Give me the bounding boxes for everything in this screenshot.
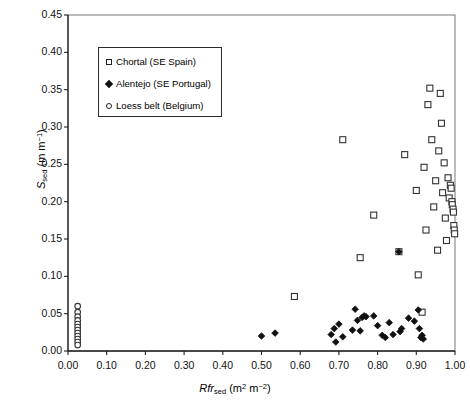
y-tick-label: 0.40: [22, 45, 62, 57]
data-point: [336, 321, 343, 328]
scatter-plot-figure: Ssed (m m−1) Rfrsed (m2 m−2) Chortal (SE…: [0, 0, 470, 405]
legend-item-chortal: Chortal (SE Spain): [106, 56, 196, 67]
data-point: [431, 204, 437, 210]
series-open-circle: [75, 303, 81, 347]
y-tick-label: 0.15: [22, 232, 62, 244]
data-point: [441, 160, 447, 166]
open-circle-icon: [106, 103, 112, 109]
legend-label: Loess belt (Belgium): [116, 100, 203, 111]
data-point: [421, 164, 427, 170]
x-tick-label: 0.10: [87, 359, 127, 371]
data-point: [435, 247, 441, 253]
data-point: [445, 175, 451, 181]
data-point: [440, 190, 446, 196]
data-point: [357, 328, 364, 335]
data-point: [448, 185, 454, 191]
x-tick-label: 0.60: [280, 359, 320, 371]
series-filled-diamond: [258, 248, 426, 345]
data-point: [450, 209, 456, 215]
data-point: [442, 215, 448, 221]
x-tick-label: 0.80: [358, 359, 398, 371]
data-point: [415, 272, 421, 278]
y-tick-label: 0.10: [22, 269, 62, 281]
data-point: [291, 293, 297, 299]
x-tick-label: 0.50: [242, 359, 282, 371]
data-point: [349, 327, 356, 334]
x-tick-label: 0.30: [164, 359, 204, 371]
data-point: [452, 231, 458, 237]
y-tick-label: 0.00: [22, 344, 62, 356]
data-point: [371, 212, 377, 218]
data-point: [75, 303, 81, 309]
legend-label: Chortal (SE Spain): [116, 56, 196, 67]
data-point: [438, 120, 444, 126]
data-point: [402, 152, 408, 158]
data-point: [272, 330, 279, 337]
data-point: [433, 178, 439, 184]
data-point: [340, 137, 346, 143]
data-point: [258, 333, 265, 340]
data-point: [374, 322, 381, 329]
data-point: [328, 331, 335, 338]
x-tick-label: 0.40: [203, 359, 243, 371]
y-tick-label: 0.20: [22, 195, 62, 207]
data-point: [413, 187, 419, 193]
data-point: [425, 102, 431, 108]
data-point: [370, 313, 377, 320]
y-tick-label: 0.35: [22, 83, 62, 95]
x-tick-label: 0.70: [319, 359, 359, 371]
data-point: [423, 227, 429, 233]
x-tick-label: 0.00: [48, 359, 88, 371]
legend: Chortal (SE Spain) Alentejo (SE Portugal…: [98, 47, 222, 117]
data-point: [75, 342, 81, 348]
data-point: [437, 90, 443, 96]
x-axis-label: Rfrsed (m2 m−2): [0, 382, 470, 396]
data-point: [333, 339, 340, 346]
data-point: [405, 315, 412, 322]
y-tick-label: 0.45: [22, 8, 62, 20]
data-point: [331, 325, 338, 332]
x-tick-label: 0.20: [125, 359, 165, 371]
legend-item-alentejo: Alentejo (SE Portugal): [106, 78, 211, 89]
legend-label: Alentejo (SE Portugal): [116, 78, 211, 89]
data-point: [339, 334, 346, 341]
data-point: [386, 319, 393, 326]
series-open-square: [291, 85, 457, 315]
filled-diamond-icon: [105, 79, 113, 87]
data-point: [436, 148, 442, 154]
data-point: [357, 255, 363, 261]
data-point: [411, 318, 418, 325]
data-point: [416, 325, 423, 332]
x-tick-label: 1.00: [435, 359, 470, 371]
y-tick-label: 0.30: [22, 120, 62, 132]
data-point: [352, 306, 359, 313]
open-square-icon: [106, 59, 112, 65]
x-tick-label: 0.90: [396, 359, 436, 371]
legend-item-loess: Loess belt (Belgium): [106, 100, 203, 111]
data-point: [443, 237, 449, 243]
y-tick-label: 0.05: [22, 307, 62, 319]
y-tick-label: 0.25: [22, 157, 62, 169]
data-point: [427, 85, 433, 91]
data-point: [390, 331, 397, 338]
plot-canvas: [0, 0, 470, 405]
data-point: [429, 137, 435, 143]
